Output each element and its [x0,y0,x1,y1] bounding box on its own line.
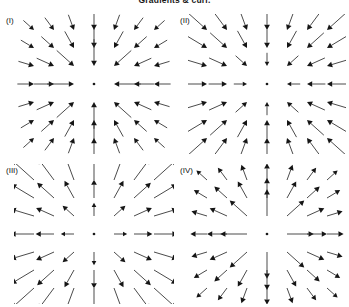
vector-field-panel-iv [188,164,346,304]
panel-label-iii: (III) [6,166,18,175]
vector-field-plot-iii [14,164,174,304]
origin-dot [93,83,96,86]
vector-field-plot-iv [188,164,346,304]
figure-root: Gradients & curl. (I) (II) (III) (IV) [0,0,349,307]
origin-dot [266,83,269,86]
origin-dot [266,233,269,236]
origin-dot [93,233,96,236]
vector-field-panel-iii [14,164,174,304]
panel-label-ii: (II) [180,16,190,25]
panel-label-i: (I) [6,16,14,25]
vector-field-panel-ii [188,14,346,154]
vector-field-panel-i [14,14,174,154]
vector-field-plot-ii [188,14,346,154]
vector-field-plot-i [14,14,174,154]
panel-label-iv: (IV) [180,166,193,175]
figure-title: Gradients & curl. [0,0,349,4]
